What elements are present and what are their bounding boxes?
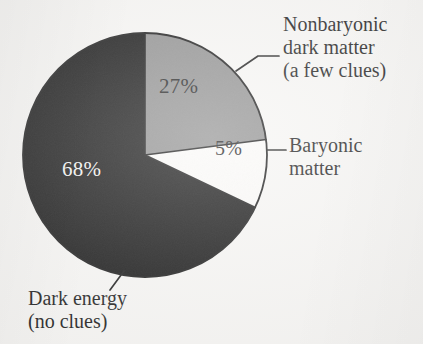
callout-dark-energy-line-2: (no clues) — [28, 310, 127, 333]
callout-dark-energy: Dark energy (no clues) — [28, 287, 127, 333]
callout-baryonic-line-1: Baryonic — [289, 134, 362, 157]
callout-nonbaryonic-line-1: Nonbaryonic — [283, 13, 387, 36]
callout-baryonic-matter: Baryonic matter — [289, 134, 362, 180]
slice-value-baryonic: 5% — [215, 137, 242, 160]
slice-value-nonbaryonic: 27% — [159, 74, 198, 99]
slice-value-dark-energy: 68% — [62, 157, 101, 182]
callout-nonbaryonic-line-3: (a few clues) — [283, 59, 387, 82]
callout-nonbaryonic-dark-matter: Nonbaryonic dark matter (a few clues) — [283, 13, 387, 83]
callout-dark-energy-line-1: Dark energy — [28, 287, 127, 310]
callout-nonbaryonic-line-2: dark matter — [283, 36, 387, 59]
callout-baryonic-line-2: matter — [289, 157, 362, 180]
pie-chart-figure: 27% 68% 5% Nonbaryonic dark matter (a fe… — [0, 0, 423, 344]
leader-line-nonbaryonic — [236, 56, 279, 71]
